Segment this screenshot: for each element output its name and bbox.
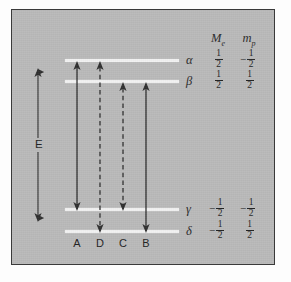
value-alpha-mp-denominator: 2 — [248, 60, 255, 70]
value-beta-mp-denominator: 2 — [246, 81, 253, 91]
value-alpha-mp-sign: − — [240, 54, 246, 65]
value-alpha-Me-numerator: 1 — [215, 49, 222, 59]
value-alpha-Me: 1 2 — [203, 50, 233, 68]
column-header-Me-sub: e — [221, 39, 225, 48]
value-beta-Me-numerator: 1 — [215, 70, 222, 80]
column-header-mp-sub: p — [252, 39, 256, 48]
column-header-mp-base: m — [242, 31, 251, 45]
value-gamma-Me-denominator: 2 — [217, 209, 224, 219]
transition-arrow-D — [96, 61, 103, 233]
value-alpha-mp-fraction: 1 2 — [247, 49, 255, 70]
value-beta-Me: 1 2 — [203, 71, 233, 89]
transition-label-D: D — [92, 238, 108, 249]
value-gamma-Me: − 1 2 — [200, 199, 233, 217]
transition-label-B: B — [138, 238, 154, 249]
level-label-delta: δ — [186, 225, 192, 238]
value-gamma-Me-fraction: 1 2 — [216, 198, 224, 219]
value-beta-mp-fraction: 1 2 — [246, 70, 254, 91]
value-delta-mp-denominator: 2 — [246, 231, 253, 241]
value-alpha-mp: − 1 2 — [231, 50, 264, 68]
transition-arrow-C — [119, 82, 126, 211]
value-gamma-mp-numerator: 1 — [248, 198, 255, 208]
transition-label-C: C — [115, 238, 131, 249]
value-delta-Me-fraction: 1 2 — [216, 220, 224, 241]
column-header-mp: mp — [234, 32, 264, 48]
value-beta-Me-fraction: 1 2 — [215, 70, 223, 91]
value-delta-mp-numerator: 1 — [246, 220, 253, 230]
level-label-alpha: α — [186, 54, 193, 67]
value-alpha-Me-fraction: 1 2 — [215, 49, 223, 70]
value-delta-Me-numerator: 1 — [217, 220, 224, 230]
value-delta-Me-denominator: 2 — [217, 231, 224, 241]
value-beta-mp: 1 2 — [234, 71, 264, 89]
value-alpha-Me-denominator: 2 — [215, 60, 222, 70]
figure-root: E α β γ δ Me mp 1 2 1 2 — [0, 0, 291, 282]
column-header-Me: Me — [203, 32, 233, 48]
level-label-beta: β — [186, 75, 192, 88]
value-delta-Me: − 1 2 — [200, 221, 233, 239]
value-delta-mp-fraction: 1 2 — [246, 220, 254, 241]
transition-arrow-A — [73, 61, 80, 211]
value-delta-Me-sign: − — [209, 225, 215, 236]
column-header-Me-base: M — [211, 31, 221, 45]
value-gamma-mp: − 1 2 — [231, 199, 264, 217]
level-label-gamma: γ — [186, 203, 191, 216]
diagram-panel: E α β γ δ Me mp 1 2 1 2 — [11, 9, 275, 265]
value-beta-mp-numerator: 1 — [246, 70, 253, 80]
value-gamma-mp-fraction: 1 2 — [247, 198, 255, 219]
value-gamma-mp-sign: − — [240, 203, 246, 214]
value-gamma-mp-denominator: 2 — [248, 209, 255, 219]
transition-label-A: A — [69, 238, 85, 249]
value-beta-Me-denominator: 2 — [215, 81, 222, 91]
energy-axis-label: E — [33, 138, 45, 152]
value-gamma-Me-numerator: 1 — [217, 198, 224, 208]
value-alpha-mp-numerator: 1 — [248, 49, 255, 59]
value-gamma-Me-sign: − — [209, 203, 215, 214]
transition-arrow-B — [142, 82, 149, 233]
value-delta-mp: 1 2 — [234, 221, 264, 239]
